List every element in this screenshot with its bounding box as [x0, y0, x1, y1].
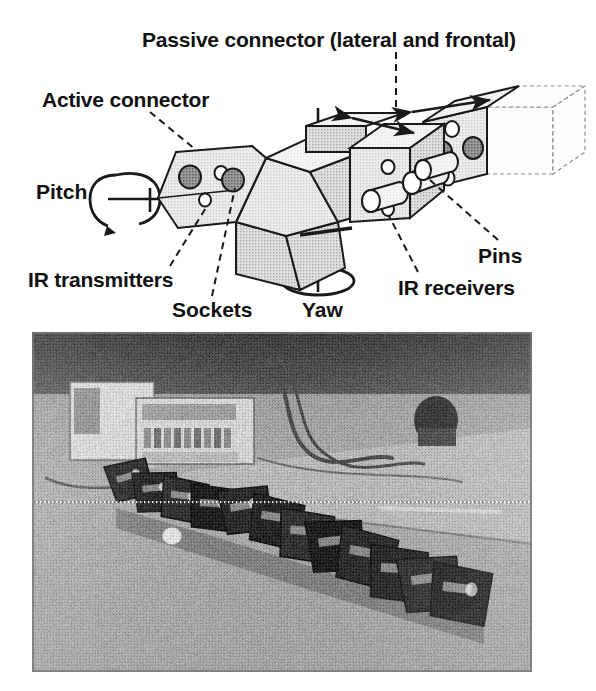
leader-ir-receivers: [389, 216, 418, 272]
leader-active: [150, 112, 196, 150]
leader-pins: [430, 180, 498, 240]
ir-transmitter-icon: [179, 166, 201, 189]
socket-icon: [445, 121, 459, 137]
ir-transmitter-icon: [222, 169, 244, 192]
socket-icon: [199, 194, 211, 207]
ir-receiver-icon: [463, 137, 483, 159]
module-schematic: [0, 0, 596, 330]
robot-photograph: [32, 332, 532, 672]
robot-photo-canvas: [32, 332, 532, 672]
socket-icon: [382, 160, 395, 174]
figure-container: Passive connector (lateral and frontal) …: [0, 0, 596, 691]
